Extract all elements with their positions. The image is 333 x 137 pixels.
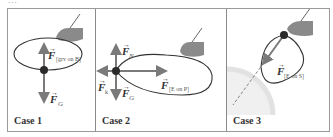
ball (40, 66, 48, 74)
svg-text:→: → (278, 61, 285, 69)
cropped-figure-number: ... (8, 0, 18, 5)
case-3-label: Case 3 (233, 115, 261, 126)
svg-text:→: → (99, 77, 106, 85)
force-label-g: G (129, 94, 134, 102)
svg-text:→: → (162, 75, 169, 83)
svg-text:→: → (49, 45, 56, 53)
panel-case-3: F → [E on S] Case 3 (227, 9, 329, 131)
figure-frame: F → [grv on B] F → G Case 1 (7, 8, 330, 132)
hand-icon (56, 14, 83, 42)
hand-icon (180, 28, 204, 57)
svg-text:→: → (51, 89, 58, 97)
ball (280, 31, 288, 39)
hand-icon (287, 9, 313, 36)
ball (112, 67, 120, 75)
svg-text:→: → (123, 41, 130, 49)
panel-case-1: F → [grv on B] F → G Case 1 (8, 9, 96, 131)
svg-text:→: → (123, 83, 130, 91)
force-label-g: G (58, 100, 63, 108)
force-label-k: k (105, 89, 108, 95)
force-label-n: N (128, 52, 134, 60)
case-1-label: Case 1 (14, 115, 42, 126)
force-label-grv: [grv on B] (56, 56, 81, 63)
force-label-e-on-p: [E on P] (169, 86, 189, 93)
force-label-e-on-s: [E on S] (284, 73, 304, 80)
panel-case-2: F → N F → k F → G F → [E on P] Case 2 (96, 9, 227, 131)
case-2-label: Case 2 (102, 115, 130, 126)
